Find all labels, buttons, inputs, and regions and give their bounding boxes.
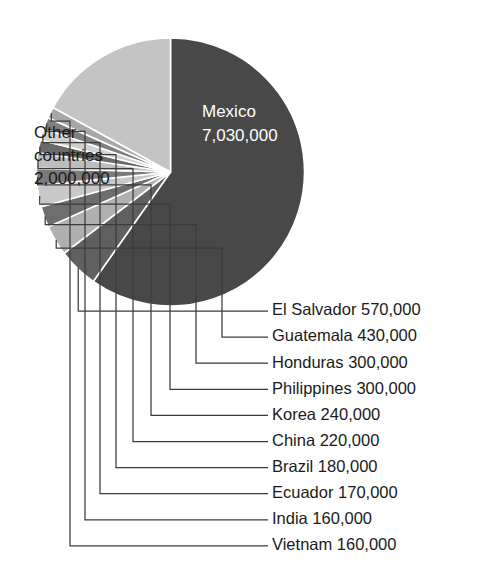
callout-label: Korea 240,000 [272, 405, 380, 423]
slice-label-mexico-name: Mexico [202, 102, 256, 121]
callout-label: Ecuador 170,000 [272, 483, 398, 501]
callout-label: India 160,000 [272, 509, 372, 527]
callout-label: China 220,000 [272, 431, 379, 449]
callout-label: Vietnam 160,000 [272, 535, 396, 553]
callout-labels: El Salvador 570,000Guatemala 430,000Hond… [272, 300, 421, 553]
slice-label-other-line2: countries [34, 146, 103, 165]
callout-label: Philippines 300,000 [272, 379, 416, 397]
callout-label: Honduras 300,000 [272, 353, 408, 371]
slice-label-other-value: 2,000,000 [34, 169, 110, 188]
pie-chart-figure: Mexico 7,030,000 Other countries 2,000,0… [0, 0, 480, 579]
callout-label: El Salvador 570,000 [272, 300, 421, 318]
pie-chart-svg: Mexico 7,030,000 Other countries 2,000,0… [0, 0, 480, 579]
slice-label-other-line1: Other [34, 123, 77, 142]
callout-label: Brazil 180,000 [272, 457, 378, 475]
callout-label: Guatemala 430,000 [272, 326, 417, 344]
slice-label-mexico-value: 7,030,000 [202, 126, 278, 145]
